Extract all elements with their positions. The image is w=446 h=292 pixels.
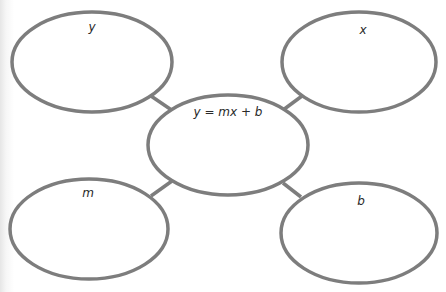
diagram-shapes bbox=[0, 0, 446, 292]
connector-bottom-left bbox=[151, 181, 172, 196]
connector-bottom-right bbox=[283, 183, 301, 197]
center-label-equation: y = mx + b bbox=[194, 106, 263, 118]
node-label-top-right: x bbox=[359, 24, 366, 36]
concept-web-diagram: y x y = mx + b m b bbox=[0, 0, 446, 292]
node-label-bottom-left: m bbox=[82, 187, 94, 199]
node-label-bottom-right: b bbox=[357, 195, 365, 207]
node-label-top-left: y bbox=[88, 21, 95, 33]
connector-top-right bbox=[283, 96, 302, 110]
